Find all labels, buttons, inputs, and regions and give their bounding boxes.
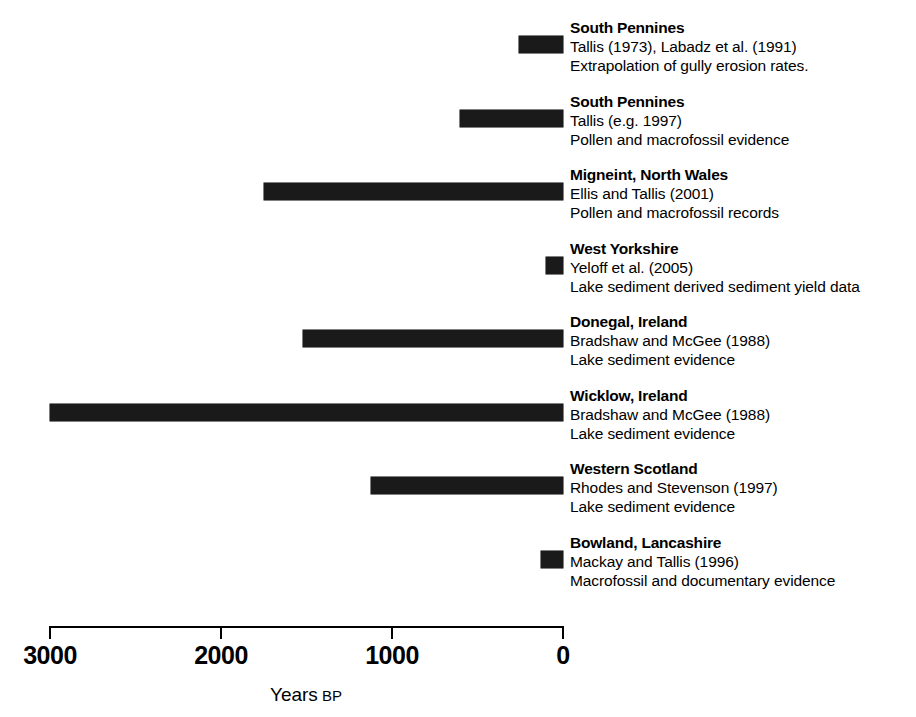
row-reference: Bradshaw and McGee (1988): [570, 331, 916, 350]
row-site-name: Western Scotland: [570, 459, 916, 478]
row-labels: West YorkshireYeloff et al. (2005)Lake s…: [570, 239, 916, 296]
row-evidence-description: Macrofossil and documentary evidence: [570, 571, 916, 590]
row-evidence-description: Pollen and macrofossil records: [570, 203, 916, 222]
chart-row: Donegal, IrelandBradshaw and McGee (1988…: [0, 312, 916, 384]
row-reference: Tallis (1973), Labadz et al. (1991): [570, 37, 916, 56]
row-site-name: Donegal, Ireland: [570, 312, 916, 331]
axis-title-main: Years: [270, 684, 318, 705]
row-evidence-description: Lake sediment derived sediment yield dat…: [570, 277, 916, 296]
row-reference: Mackay and Tallis (1996): [570, 552, 916, 571]
range-bar: [519, 36, 563, 53]
range-bar: [541, 551, 563, 568]
row-reference: Bradshaw and McGee (1988): [570, 405, 916, 424]
row-evidence-description: Pollen and macrofossil evidence: [570, 130, 916, 149]
axis-tick: [562, 626, 564, 639]
row-reference: Yeloff et al. (2005): [570, 258, 916, 277]
row-evidence-description: Extrapolation of gully erosion rates.: [570, 56, 916, 75]
row-evidence-description: Lake sediment evidence: [570, 424, 916, 443]
axis-title-suffix: BP: [318, 687, 342, 704]
range-bar: [546, 257, 563, 274]
chart-row: Wicklow, IrelandBradshaw and McGee (1988…: [0, 386, 916, 458]
row-site-name: South Pennines: [570, 18, 916, 37]
axis-tick-label: 1000: [365, 641, 419, 670]
x-axis: 3000200010000 Years BP: [0, 612, 916, 717]
row-reference: Ellis and Tallis (2001): [570, 184, 916, 203]
axis-line: [50, 626, 563, 628]
row-labels: Wicklow, IrelandBradshaw and McGee (1988…: [570, 386, 916, 443]
chart-row: Migneint, North WalesEllis and Tallis (2…: [0, 165, 916, 237]
row-site-name: Migneint, North Wales: [570, 165, 916, 184]
chart-row: South PenninesTallis (1973), Labadz et a…: [0, 18, 916, 90]
row-labels: Migneint, North WalesEllis and Tallis (2…: [570, 165, 916, 222]
axis-tick-label: 0: [556, 641, 569, 670]
axis-tick-label: 3000: [23, 641, 77, 670]
axis-tick: [49, 626, 51, 639]
range-bar: [371, 477, 563, 494]
chart-row: Western ScotlandRhodes and Stevenson (19…: [0, 459, 916, 531]
range-bar: [264, 183, 563, 200]
row-site-name: West Yorkshire: [570, 239, 916, 258]
axis-tick: [391, 626, 393, 639]
row-reference: Rhodes and Stevenson (1997): [570, 478, 916, 497]
erosion-onset-chart: South PenninesTallis (1973), Labadz et a…: [0, 0, 916, 717]
row-labels: South PenninesTallis (1973), Labadz et a…: [570, 18, 916, 75]
row-labels: Donegal, IrelandBradshaw and McGee (1988…: [570, 312, 916, 369]
axis-title: Years BP: [270, 684, 342, 706]
chart-row: South PenninesTallis (e.g. 1997)Pollen a…: [0, 92, 916, 164]
chart-row: Bowland, LancashireMackay and Tallis (19…: [0, 533, 916, 605]
row-labels: South PenninesTallis (e.g. 1997)Pollen a…: [570, 92, 916, 149]
row-site-name: Wicklow, Ireland: [570, 386, 916, 405]
row-labels: Western ScotlandRhodes and Stevenson (19…: [570, 459, 916, 516]
row-site-name: Bowland, Lancashire: [570, 533, 916, 552]
range-bar: [460, 110, 563, 127]
axis-tick: [220, 626, 222, 639]
range-bar: [303, 330, 563, 347]
chart-row: West YorkshireYeloff et al. (2005)Lake s…: [0, 239, 916, 311]
row-reference: Tallis (e.g. 1997): [570, 111, 916, 130]
row-site-name: South Pennines: [570, 92, 916, 111]
axis-tick-label: 2000: [194, 641, 248, 670]
row-labels: Bowland, LancashireMackay and Tallis (19…: [570, 533, 916, 590]
range-bar: [50, 404, 563, 421]
row-evidence-description: Lake sediment evidence: [570, 497, 916, 516]
row-evidence-description: Lake sediment evidence: [570, 350, 916, 369]
